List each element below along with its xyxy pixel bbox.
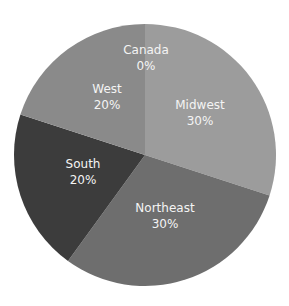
slice-label-percent: 20% (70, 173, 97, 187)
slice-label-name: Canada (123, 43, 169, 57)
slice-label-percent: 0% (136, 59, 155, 73)
slice-label-name: West (92, 82, 122, 96)
slice-label-percent: 30% (187, 114, 214, 128)
pie-chart: Midwest30%Northeast30%South20%West20%Can… (0, 0, 289, 306)
slice-label-name: South (66, 157, 101, 171)
slice-label-name: Midwest (175, 98, 225, 112)
slice-label-percent: 30% (152, 217, 179, 231)
slice-label-percent: 20% (94, 98, 121, 112)
slice-label-name: Northeast (135, 201, 195, 215)
